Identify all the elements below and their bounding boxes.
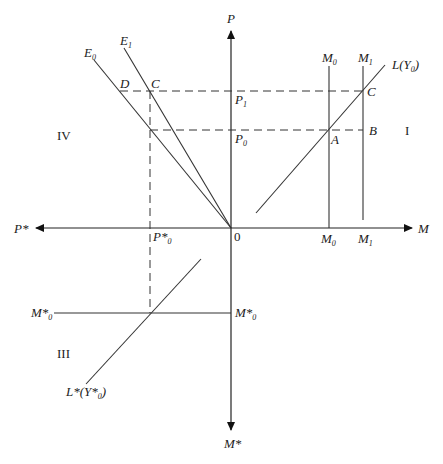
l-y0-demand-line: [256, 65, 385, 213]
lstar-ystar0-label: L*(Y*0): [65, 384, 106, 401]
p-axis-label: P: [226, 11, 235, 26]
quadrant-iv-label: IV: [57, 128, 71, 143]
four-quadrant-diagram: P M P* M* 0 E0 E1 M0 M1 L(Y0) L*(Y*0) P1…: [0, 0, 443, 464]
m1-axis-label: M1: [357, 231, 373, 248]
mstar-axis-label: M*: [223, 436, 242, 451]
e1-line: [124, 48, 231, 228]
e0-label: E0: [83, 45, 96, 62]
m0-axis-label: M0: [320, 231, 336, 248]
l-y0-label: L(Y0): [391, 57, 419, 74]
point-c-right-label: C: [367, 84, 376, 99]
e0-line: [94, 60, 231, 228]
origin-label: 0: [234, 229, 241, 244]
pstar-axis-label: P*: [13, 221, 29, 236]
point-b-label: B: [369, 123, 377, 138]
lstar-ystar0-line: [86, 259, 201, 384]
point-a-label: A: [330, 132, 339, 147]
m0-top-label: M0: [321, 50, 337, 67]
quadrant-i-label: I: [405, 123, 409, 138]
pstar0-label: P*0: [152, 229, 171, 246]
mstar0-left-label: M*0: [30, 305, 52, 322]
p0-label: P0: [234, 131, 247, 148]
quadrant-iii-label: III: [57, 346, 70, 361]
m-axis-label: M: [417, 221, 430, 236]
e1-label: E1: [119, 33, 132, 50]
point-d-label: D: [119, 76, 130, 91]
point-c-left-label: C: [151, 76, 160, 91]
mstar0-right-label: M*0: [234, 305, 256, 322]
m1-top-label: M1: [357, 50, 373, 67]
p1-label: P1: [234, 92, 247, 109]
